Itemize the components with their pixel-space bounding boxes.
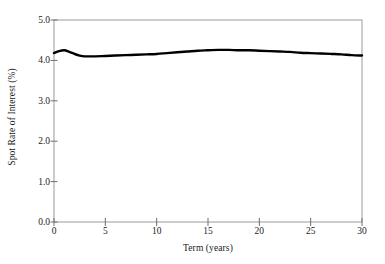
spot-rate-curve-chart: Spot Rate of Interest (%) 0.01.02.03.04.… (0, 0, 385, 264)
data-series-line (54, 50, 362, 57)
plot-area (0, 0, 385, 264)
